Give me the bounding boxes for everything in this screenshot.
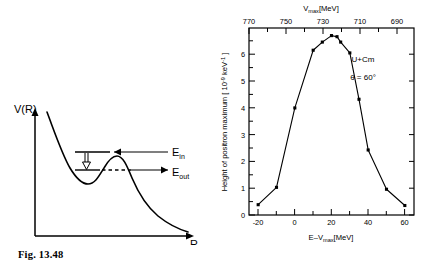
potential-curve-diagram: V(R) R Ein Eout	[0, 0, 213, 245]
system-annotation: U+Cm	[352, 55, 375, 64]
top-tick-label: 690	[391, 17, 403, 26]
figure-13-48: V(R) R Ein Eout Fig. 13.48	[0, 0, 213, 279]
x-tick-label: 60	[400, 218, 408, 227]
data-point	[312, 49, 315, 52]
svg-text:Ein: Ein	[172, 146, 185, 160]
y-tick-label: 4	[241, 104, 245, 113]
data-point	[275, 186, 278, 189]
energy-in-base: E	[172, 146, 179, 158]
data-point	[330, 34, 333, 37]
v-of-r-label: V(R)	[14, 103, 37, 115]
positron-maximum-chart: Vmax[MeV] 770 750 730 710 690	[213, 0, 426, 248]
x-axis-title-base: E–V	[309, 233, 324, 242]
figure-13-49: Vmax[MeV] 770 750 730 710 690	[213, 0, 426, 279]
y-tick-label: 0	[241, 211, 245, 220]
bottom-axis-ticks	[258, 209, 405, 215]
bottom-axis-tick-labels: -20 0 20 40 60	[253, 218, 409, 227]
data-point	[367, 148, 370, 151]
data-point	[293, 106, 296, 109]
figure-caption-13-48: Fig. 13.48	[18, 249, 63, 260]
y-axis-ticks	[249, 41, 255, 215]
y-axis-title-mid: keV	[220, 61, 229, 77]
data-point	[403, 204, 406, 207]
x-axis-title-units: [MeV]	[334, 233, 354, 242]
data-point	[348, 51, 351, 54]
y-tick-label: 5	[241, 77, 245, 86]
y-tick-label: 6	[241, 50, 245, 59]
energy-in-label: Ein	[172, 146, 185, 160]
y-tick-label: 3	[241, 131, 245, 140]
r-axis-label: R	[190, 238, 198, 245]
top-axis-title-units: [MeV]	[319, 4, 339, 13]
energy-in-subscript: in	[179, 153, 185, 160]
y-tick-label: 1	[241, 184, 245, 193]
energy-out-label: Eout	[172, 166, 189, 180]
top-axis-title: Vmax[MeV]	[303, 4, 339, 14]
x-tick-label: 20	[327, 218, 335, 227]
top-tick-label: 770	[243, 17, 255, 26]
x-tick-label: 0	[293, 218, 297, 227]
top-axis-ticks	[249, 28, 397, 34]
svg-text:Eout: Eout	[172, 166, 189, 180]
angle-annotation: θ = 60°	[350, 73, 376, 82]
top-tick-label: 730	[317, 17, 329, 26]
data-series-markers	[257, 34, 407, 207]
x-axis-title: E–Vmax[MeV]	[309, 233, 354, 243]
right-axis-ticks	[409, 54, 414, 215]
data-series-line	[258, 36, 405, 206]
y-tick-label: 2	[241, 157, 245, 166]
top-tick-label: 750	[280, 17, 292, 26]
plot-frame	[249, 28, 414, 215]
y-axis-title: Height of positron maximum [ 10-9 keV-1 …	[220, 53, 229, 192]
top-axis-title-subscript: max	[308, 8, 319, 14]
x-tick-label: 40	[364, 218, 372, 227]
x-axis-title-subscript: max	[323, 237, 334, 243]
energy-gap-down-arrow	[83, 162, 91, 170]
energy-out-subscript: out	[179, 173, 189, 180]
data-point	[385, 188, 388, 191]
y-axis-tick-labels: 0 1 2 3 4 5 6	[241, 50, 245, 220]
data-point	[321, 41, 324, 44]
top-tick-label: 710	[354, 17, 366, 26]
data-point	[257, 203, 260, 206]
data-point	[357, 98, 360, 101]
data-point	[335, 35, 338, 38]
y-axis-title-text: Height of positron maximum [ 10	[220, 82, 229, 191]
x-tick-label: -20	[253, 218, 264, 227]
angle-annotation-base: θ = 60	[350, 73, 373, 82]
potential-curve	[47, 112, 188, 232]
y-axis-title-tail: ]	[220, 53, 229, 57]
data-point	[339, 41, 342, 44]
top-axis-tick-labels: 770 750 730 710 690	[243, 17, 403, 26]
angle-annotation-unit: °	[373, 73, 376, 82]
energy-out-base: E	[172, 166, 179, 178]
